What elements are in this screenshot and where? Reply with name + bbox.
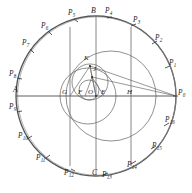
label-P4: P4 bbox=[105, 7, 112, 14]
label-P7: P7 bbox=[22, 39, 29, 46]
label-E: E bbox=[101, 89, 105, 96]
label-P9: P9 bbox=[9, 103, 16, 110]
label-P14: P14 bbox=[127, 161, 137, 168]
geometry-canvas bbox=[0, 0, 192, 193]
label-K: K bbox=[84, 55, 89, 62]
dot-K bbox=[89, 65, 91, 67]
label-P3: P3 bbox=[133, 16, 140, 23]
label-P5: P5 bbox=[68, 9, 75, 16]
label-C: C bbox=[92, 169, 97, 177]
label-B: B bbox=[91, 7, 96, 15]
tick-P11 bbox=[46, 155, 50, 158]
label-P0: P0 bbox=[178, 89, 185, 96]
label-H: H bbox=[127, 89, 132, 96]
label-P8: P8 bbox=[9, 70, 16, 77]
label-P10: P10 bbox=[18, 132, 28, 139]
dot-J bbox=[91, 76, 93, 78]
label-J: J bbox=[93, 66, 96, 73]
label-P15: P15 bbox=[152, 142, 162, 149]
label-A: A bbox=[13, 86, 18, 94]
label-P16: P16 bbox=[165, 116, 175, 123]
label-P12: P12 bbox=[64, 169, 74, 176]
label-P2: P2 bbox=[155, 34, 162, 41]
dot-O bbox=[95, 95, 97, 97]
label-G: G bbox=[62, 89, 67, 96]
label-F: F bbox=[78, 89, 82, 96]
label-P1: P1 bbox=[169, 59, 176, 66]
label-P13: P13 bbox=[102, 171, 112, 178]
label-O: O bbox=[88, 89, 93, 96]
geometry-figure: P0 P1 P2 P3 P4 P5 P6 P7 P8 P9 P10 P11 P1… bbox=[0, 0, 192, 193]
label-P11: P11 bbox=[36, 154, 45, 161]
label-P6: P6 bbox=[41, 22, 48, 29]
ray-K-to-J bbox=[90, 66, 92, 77]
